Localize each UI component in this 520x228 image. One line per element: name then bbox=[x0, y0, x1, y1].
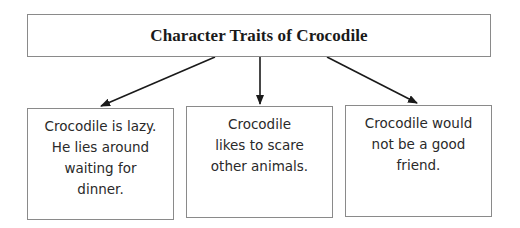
trait-text-3: Crocodile would not be a good friend. bbox=[346, 113, 491, 176]
trait-box-1: Crocodile is lazy. He lies around waitin… bbox=[27, 108, 174, 220]
trait-text-1: Crocodile is lazy. He lies around waitin… bbox=[28, 116, 173, 200]
diagram-title: Character Traits of Crocodile bbox=[150, 26, 367, 46]
trait-box-2: Crocodile likes to scare other animals. bbox=[186, 106, 333, 218]
arrow-to-trait-1 bbox=[101, 57, 215, 106]
arrow-to-trait-3 bbox=[327, 57, 417, 103]
trait-text-2: Crocodile likes to scare other animals. bbox=[187, 114, 332, 177]
title-box: Character Traits of Crocodile bbox=[27, 14, 491, 57]
trait-box-3: Crocodile would not be a good friend. bbox=[345, 105, 492, 217]
